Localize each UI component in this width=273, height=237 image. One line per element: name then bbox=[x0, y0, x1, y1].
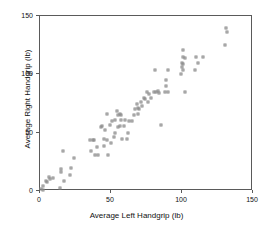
data-point bbox=[182, 68, 185, 71]
data-point bbox=[226, 31, 229, 34]
plot-area bbox=[39, 15, 252, 190]
x-axis-tick-label: 0 bbox=[37, 196, 41, 203]
data-point bbox=[101, 124, 104, 127]
data-point bbox=[138, 108, 141, 111]
data-point bbox=[92, 138, 95, 141]
data-point bbox=[182, 48, 185, 51]
data-point bbox=[225, 26, 228, 29]
data-point bbox=[131, 120, 134, 123]
y-axis-tick-label: 150 bbox=[11, 12, 33, 19]
data-point bbox=[183, 90, 186, 93]
data-point bbox=[114, 131, 117, 134]
data-point bbox=[223, 44, 226, 47]
data-point bbox=[193, 68, 196, 71]
data-point bbox=[124, 118, 127, 121]
data-point bbox=[105, 113, 108, 116]
data-point bbox=[202, 55, 205, 58]
x-axis-tick-label: 50 bbox=[106, 196, 114, 203]
data-point bbox=[118, 124, 121, 127]
data-point bbox=[102, 144, 105, 147]
data-point bbox=[179, 73, 182, 76]
data-point bbox=[108, 123, 111, 126]
x-axis-tick-label: 150 bbox=[246, 196, 258, 203]
x-axis-tick bbox=[39, 190, 40, 193]
data-point bbox=[105, 138, 108, 141]
data-point bbox=[165, 79, 168, 82]
data-point bbox=[60, 167, 63, 170]
x-axis-tick-label: 100 bbox=[175, 196, 187, 203]
data-point bbox=[121, 137, 124, 140]
data-point bbox=[70, 166, 73, 169]
data-point bbox=[125, 137, 128, 140]
x-axis-tick bbox=[252, 190, 253, 193]
data-point bbox=[127, 131, 130, 134]
data-point bbox=[132, 114, 135, 117]
data-point bbox=[60, 171, 63, 174]
data-point bbox=[154, 68, 157, 71]
y-axis-label: Average Right Handgrip (lb) bbox=[24, 19, 32, 179]
data-point bbox=[183, 57, 186, 60]
data-point bbox=[149, 96, 152, 99]
data-point bbox=[195, 55, 198, 58]
data-point bbox=[51, 177, 54, 180]
data-point bbox=[196, 61, 199, 64]
scatter-plot-figure: 050100150 050100150 Average Left Handgri… bbox=[0, 0, 273, 237]
y-axis-tick bbox=[36, 190, 39, 191]
data-point bbox=[158, 92, 161, 95]
y-axis-tick bbox=[36, 15, 39, 16]
data-point bbox=[58, 186, 61, 189]
data-point bbox=[110, 142, 113, 145]
data-point bbox=[159, 123, 162, 126]
y-axis-tick-label: 0 bbox=[11, 187, 33, 194]
y-axis-tick bbox=[36, 73, 39, 74]
data-point bbox=[141, 104, 144, 107]
data-point bbox=[135, 102, 138, 105]
data-point bbox=[73, 157, 76, 160]
data-point bbox=[97, 153, 100, 156]
data-point bbox=[41, 188, 44, 191]
x-axis-label: Average Left Handgrip (lb) bbox=[0, 212, 273, 220]
data-point bbox=[146, 101, 149, 104]
data-point bbox=[95, 145, 98, 148]
data-point bbox=[119, 118, 122, 121]
data-point bbox=[122, 124, 125, 127]
data-point bbox=[90, 150, 93, 153]
data-point bbox=[107, 153, 110, 156]
data-point bbox=[63, 179, 66, 182]
data-point bbox=[166, 90, 169, 93]
data-point bbox=[165, 85, 168, 88]
data-point bbox=[68, 173, 71, 176]
data-point bbox=[136, 113, 139, 116]
y-axis-tick bbox=[36, 132, 39, 133]
x-axis-tick bbox=[181, 190, 182, 193]
data-point bbox=[114, 118, 117, 121]
data-point bbox=[104, 129, 107, 132]
data-point bbox=[61, 150, 64, 153]
data-point bbox=[119, 114, 122, 117]
x-axis-tick bbox=[110, 190, 111, 193]
data-point bbox=[182, 62, 185, 65]
data-points-layer bbox=[40, 16, 251, 189]
data-point bbox=[112, 136, 115, 139]
data-point bbox=[166, 68, 169, 71]
